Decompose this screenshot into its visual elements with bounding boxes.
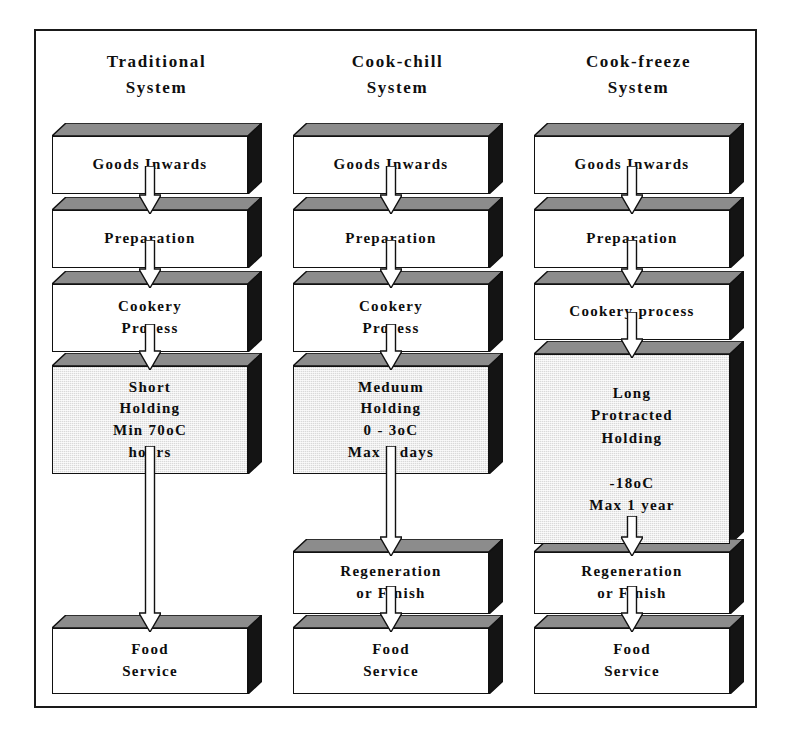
box-side-face — [730, 197, 744, 268]
flow-arrow-preparation-to-cookery-process — [621, 240, 643, 288]
box-side-face — [248, 271, 262, 352]
flow-arrow-goods-inwards-to-preparation — [621, 166, 643, 214]
box-side-face — [730, 615, 744, 694]
box-side-face — [489, 271, 503, 352]
box-side-face — [489, 197, 503, 268]
flow-arrow-preparation-to-cookery-process — [380, 240, 402, 288]
flow-arrow-regeneration-to-food-service — [380, 586, 402, 632]
flow-arrow-cookery-process-to-holding — [139, 324, 161, 370]
box-side-face — [730, 123, 744, 194]
box-side-face — [489, 615, 503, 694]
process-box-front: Food Service — [534, 628, 730, 694]
box-side-face — [248, 353, 262, 474]
process-box-front: Food Service — [293, 628, 489, 694]
box-side-face — [730, 341, 744, 544]
process-box-label: Food Service — [600, 639, 664, 683]
system-column-cook-freeze: Cook-freeze SystemGoods InwardsPreparati… — [518, 31, 759, 706]
column-title-cook-chill: Cook-chill System — [277, 49, 518, 100]
flow-arrow-goods-inwards-to-preparation — [380, 166, 402, 214]
flow-arrow-holding-to-food-service — [139, 446, 161, 632]
flow-arrow-holding-to-regeneration — [380, 446, 402, 556]
flow-arrow-preparation-to-cookery-process — [139, 240, 161, 288]
system-column-traditional: Traditional SystemGoods InwardsPreparati… — [36, 31, 277, 706]
box-side-face — [489, 353, 503, 474]
diagram-frame: Traditional SystemGoods InwardsPreparati… — [34, 29, 757, 708]
process-box-label: Long Protracted Holding -18oC Max 1 year — [585, 382, 678, 517]
system-column-cook-chill: Cook-chill SystemGoods InwardsPreparatio… — [277, 31, 518, 706]
box-side-face — [489, 123, 503, 194]
process-box-front: Food Service — [52, 628, 248, 694]
flow-arrow-holding-to-regeneration — [621, 516, 643, 556]
flow-arrow-goods-inwards-to-preparation — [139, 166, 161, 214]
process-box-cook-freeze-holding[interactable]: Long Protracted Holding -18oC Max 1 year — [534, 341, 744, 544]
flow-arrow-cookery-process-to-holding — [621, 312, 643, 358]
column-title-traditional: Traditional System — [36, 49, 277, 100]
flow-arrow-regeneration-to-food-service — [621, 586, 643, 632]
column-title-cook-freeze: Cook-freeze System — [518, 49, 759, 100]
process-box-label: Food Service — [359, 639, 423, 683]
flow-arrow-cookery-process-to-holding — [380, 324, 402, 370]
box-side-face — [248, 197, 262, 268]
box-side-face — [730, 271, 744, 340]
box-side-face — [730, 539, 744, 614]
box-side-face — [489, 539, 503, 614]
box-side-face — [248, 123, 262, 194]
box-top-face — [52, 123, 262, 136]
process-box-label: Food Service — [118, 639, 182, 683]
box-top-face — [293, 123, 503, 136]
box-top-face — [534, 123, 744, 136]
box-side-face — [248, 615, 262, 694]
